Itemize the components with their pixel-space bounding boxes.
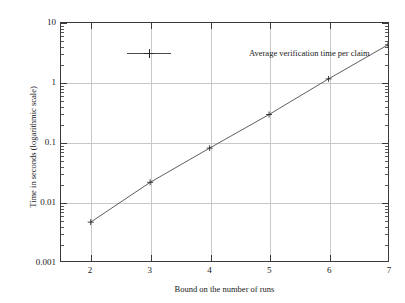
y-tick-label: 0.1 xyxy=(45,138,56,147)
x-tick-label: 6 xyxy=(327,266,332,275)
legend-entry-label: Average verification time per claim xyxy=(249,48,370,58)
legend-line-sample-icon xyxy=(127,48,171,58)
x-tick-label: 5 xyxy=(267,266,272,275)
data-point-plus-marker xyxy=(326,76,332,82)
x-axis-title: Bound on the number of runs xyxy=(60,284,389,294)
x-tick-label: 3 xyxy=(147,266,152,275)
x-tick-label: 2 xyxy=(88,266,93,275)
series-line xyxy=(91,45,388,222)
plot-area: Average verification time per claim xyxy=(60,22,389,262)
data-point-plus-marker xyxy=(147,179,153,185)
x-tick-label: 7 xyxy=(387,266,392,275)
legend: Average verification time per claim xyxy=(127,47,377,59)
y-tick-label: 0.001 xyxy=(36,258,56,267)
y-tick-label: 1 xyxy=(52,78,57,87)
y-tick-label: 0.01 xyxy=(40,198,56,207)
data-point-plus-marker xyxy=(385,42,389,48)
data-point-plus-marker xyxy=(207,145,213,151)
y-axis-title: Time in seconds (logarithmic scale) xyxy=(28,47,38,247)
x-axis-tick-labels: 234567 xyxy=(60,266,389,280)
data-point-plus-marker xyxy=(88,219,94,225)
x-tick-label: 4 xyxy=(207,266,212,275)
data-point-plus-marker xyxy=(266,112,272,118)
y-tick-label: 10 xyxy=(47,18,56,27)
chart-figure: 0.0010.010.1110 Time in seconds (logarit… xyxy=(0,0,405,303)
